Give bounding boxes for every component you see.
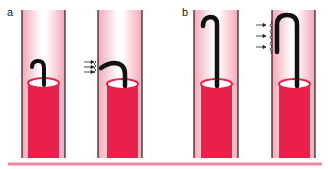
catheter-a1	[28, 83, 59, 158]
catheter-b2	[279, 84, 310, 158]
vessel-a1	[22, 10, 65, 158]
diagram-canvas	[0, 0, 328, 169]
catheter-a2	[107, 84, 138, 158]
flow-arrows-b	[256, 21, 272, 54]
vessel-a2	[84, 10, 142, 158]
vessel-b2	[256, 10, 315, 158]
catheter-b1	[201, 84, 232, 158]
vessel-b1	[194, 10, 238, 158]
flow-arrows-a	[84, 61, 96, 74]
